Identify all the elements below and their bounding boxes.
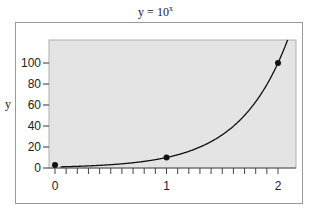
x-axis-ticks: 012	[49, 168, 296, 193]
x-tick-label: 1	[163, 179, 170, 193]
y-axis-ticks: 020406080100	[21, 56, 49, 175]
y-tick-label: 100	[21, 56, 41, 70]
plot-area: 020406080100 012	[0, 0, 311, 212]
x-tick-label: 0	[52, 179, 59, 193]
y-tick-label: 20	[28, 140, 42, 154]
data-point	[275, 60, 281, 66]
data-point	[52, 162, 58, 168]
x-tick-label: 2	[275, 179, 282, 193]
y-tick-label: 0	[34, 161, 41, 175]
plot-background	[49, 40, 296, 168]
data-point	[164, 155, 170, 161]
y-tick-label: 80	[28, 77, 42, 91]
y-tick-label: 40	[28, 119, 42, 133]
y-tick-label: 60	[28, 98, 42, 112]
